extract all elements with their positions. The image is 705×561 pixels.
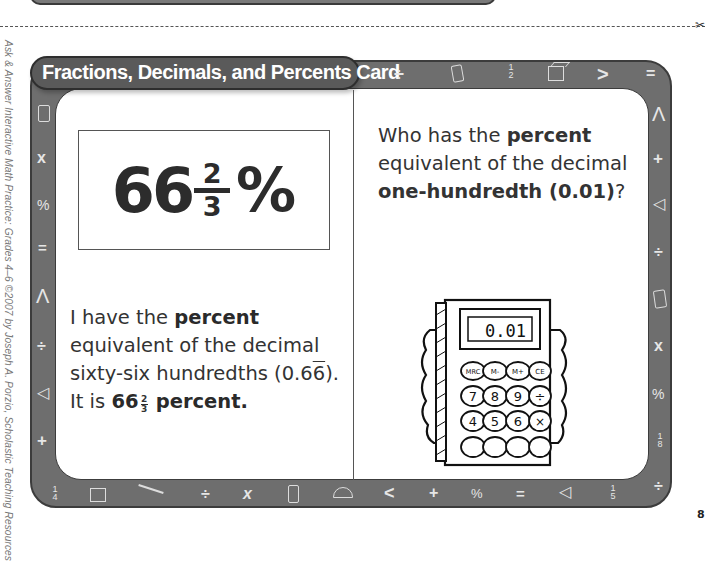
- bold-whole: 66: [111, 390, 138, 413]
- plus-icon: +: [429, 485, 438, 501]
- denominator: 3: [141, 405, 147, 414]
- plus-icon: +: [37, 432, 47, 449]
- who-has-question: Who has the percent equivalent of the de…: [378, 122, 648, 206]
- svg-text:5: 5: [491, 414, 499, 429]
- credit-text: Ask & Answer Interactive Math Practice: …: [3, 40, 14, 561]
- bold-text: percent: [174, 306, 259, 329]
- side-credit: Ask & Answer Interactive Math Practice: …: [2, 40, 16, 520]
- plus-icon: +: [653, 150, 663, 167]
- text: It is: [70, 390, 111, 413]
- text: ).: [325, 362, 339, 385]
- percent-whole: 66: [112, 154, 192, 227]
- cube-icon: [548, 66, 564, 81]
- divide-icon: ÷: [394, 66, 404, 84]
- divide-icon: ÷: [654, 478, 663, 494]
- less-than-icon: <: [384, 484, 395, 502]
- svg-text:8: 8: [491, 389, 499, 404]
- bold-text: percent: [507, 124, 592, 147]
- previous-card-bottom-edge: [30, 0, 496, 5]
- equals-icon: =: [516, 486, 525, 501]
- phone-shape-icon: [288, 485, 299, 503]
- divide-icon: ÷: [201, 486, 210, 502]
- text: I have the: [70, 306, 174, 329]
- statement-line-4: It is 6623 percent.: [70, 388, 350, 416]
- repeating-digit: 6: [313, 362, 325, 385]
- equals-icon: =: [38, 240, 47, 255]
- calculator-illustration: 0.01 MRCM-M+CE 789÷ 456×: [418, 295, 578, 467]
- calculator-display: 0.01: [485, 321, 526, 341]
- svg-text:×: ×: [535, 415, 545, 429]
- statement-line-3: sixty-six hundredths (0.66).: [70, 360, 350, 388]
- percent-value: 66 2 3 %: [79, 131, 329, 249]
- svg-text:7: 7: [469, 389, 477, 404]
- percent-icon: %: [652, 387, 664, 401]
- scissors-icon: ✂: [695, 18, 705, 32]
- question-line-1: Who has the percent: [378, 122, 648, 150]
- compass-icon: Λ: [36, 286, 49, 306]
- equals-icon: =: [646, 66, 655, 82]
- text: Who has the: [378, 124, 507, 147]
- cut-line: [0, 26, 705, 27]
- statement-line-1: I have the percent: [70, 304, 350, 332]
- fraction-one-fifth-icon: 15: [608, 484, 618, 500]
- svg-text:M-: M-: [491, 368, 500, 376]
- multiply-icon: x: [37, 150, 46, 166]
- statement-line-2: equivalent of the decimal: [70, 332, 350, 360]
- divide-icon: ÷: [654, 244, 663, 260]
- svg-text:CE: CE: [535, 368, 544, 376]
- percent-icon: %: [471, 487, 483, 500]
- fraction-numerator: 2: [203, 161, 222, 187]
- question-line-2: equivalent of the decimal: [378, 150, 648, 178]
- fraction-one-half-icon: 12: [506, 63, 516, 79]
- small-fraction: 23: [141, 395, 148, 414]
- i-have-statement: I have the percent equivalent of the dec…: [70, 304, 350, 416]
- percent-value-box: 66 2 3 %: [78, 130, 330, 250]
- multiply-icon: x: [243, 486, 252, 502]
- divide-icon: ÷: [37, 338, 46, 354]
- fraction-one-quarter-icon: 14: [50, 485, 60, 501]
- fraction-one-eighth-icon: 18: [655, 432, 665, 448]
- percent-icon: %: [37, 198, 49, 212]
- percent-fraction: 2 3: [194, 161, 230, 220]
- bold-text: one-hundredth (0.01): [378, 180, 615, 203]
- svg-text:4: 4: [469, 414, 477, 429]
- fraction-denominator: 3: [203, 194, 222, 220]
- triangle-icon: ◁: [37, 385, 49, 401]
- greater-than-icon: >: [597, 64, 609, 84]
- question-mark: ?: [615, 180, 625, 203]
- svg-text:÷: ÷: [535, 389, 546, 404]
- cube-icon: [90, 488, 106, 502]
- card-title: Fractions, Decimals, and Percents Card: [42, 61, 400, 84]
- svg-text:9: 9: [514, 389, 522, 404]
- phone-shape-icon: [38, 105, 50, 122]
- phone-shape-icon: [653, 289, 667, 308]
- numerator: 2: [141, 395, 147, 404]
- question-line-3: one-hundredth (0.01)?: [378, 178, 648, 206]
- text: sixty-six hundredths (0.6: [70, 362, 313, 385]
- period: .: [241, 390, 248, 413]
- svg-text:M+: M+: [512, 368, 524, 376]
- svg-text:6: 6: [514, 414, 522, 429]
- svg-text:MRC: MRC: [466, 368, 481, 376]
- triangle-icon: ◁: [559, 484, 571, 500]
- bold-text: percent: [156, 390, 241, 413]
- card-title-tab: Fractions, Decimals, and Percents Card: [30, 56, 360, 90]
- triangle-icon: ◁: [653, 196, 665, 212]
- multiply-icon: x: [654, 338, 663, 354]
- calculator-icon: 0.01 MRCM-M+CE 789÷ 456×: [418, 295, 578, 467]
- percent-symbol: %: [236, 155, 296, 225]
- card-divider: [353, 90, 354, 480]
- page-number: 8: [697, 508, 705, 521]
- compass-icon: Λ: [652, 104, 665, 124]
